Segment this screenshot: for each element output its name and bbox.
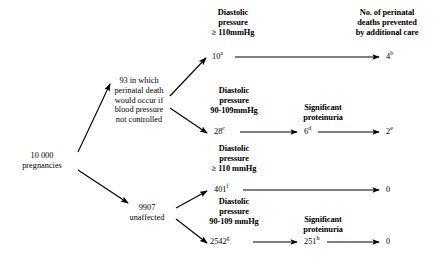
row-d-value-number: 2542 xyxy=(210,237,227,246)
column-header-proteinuria-row-b: Significant proteinuria xyxy=(290,103,356,123)
row-c-value-note: f xyxy=(226,183,228,189)
row-d-value-note: g xyxy=(227,235,230,241)
row-a-value-note: a xyxy=(220,50,223,56)
row-d-condition: Diastolic pressure 90-109 mmHg xyxy=(186,197,282,227)
row-d-proteinuria-note: h xyxy=(316,235,319,241)
row-a-outcome: 4b xyxy=(386,52,393,62)
flowchart-figure: 10 000 pregnancies 93 in which perinatal… xyxy=(0,0,442,271)
row-a-value: 10a xyxy=(212,52,223,62)
row-b-outcome: 2e xyxy=(386,127,393,137)
row-a-condition: Diastolic pressure ≥ 110mmHg xyxy=(192,8,274,38)
row-c-outcome-number: 0 xyxy=(386,185,390,194)
row-d-proteinuria-value: 251h xyxy=(304,237,319,247)
row-d-value: 2542g xyxy=(210,237,230,247)
branch-node-affected: 93 in which perinatal death would occur … xyxy=(104,76,174,125)
row-b-proteinuria-value: 6d xyxy=(304,127,311,137)
row-c-condition: Diastolic pressure ≥ 110 mmHg xyxy=(190,144,278,174)
row-d-outcome-number: 0 xyxy=(386,237,390,246)
column-header-outcome: No. of perinatal deaths prevented by add… xyxy=(336,8,438,38)
row-d-proteinuria-number: 251 xyxy=(304,237,316,246)
row-c-outcome: 0 xyxy=(386,185,390,195)
row-d-outcome: 0 xyxy=(386,237,390,247)
row-b-condition: Diastolic pressure 90-109mmHg xyxy=(188,86,280,116)
edge-root-to-unaffected xyxy=(78,170,128,203)
row-b-outcome-note: e xyxy=(390,125,393,131)
row-b-value-note: c xyxy=(222,125,225,131)
root-node-label: 10 000 pregnancies xyxy=(4,151,80,171)
branch-node-unaffected: 9907 unaffected xyxy=(118,203,176,223)
row-c-value: 401f xyxy=(214,185,228,195)
row-b-value: 28c xyxy=(214,127,225,137)
row-c-value-number: 401 xyxy=(214,185,226,194)
column-header-proteinuria-row-d: Significant proteinuria xyxy=(290,215,356,235)
row-a-outcome-note: b xyxy=(390,50,393,56)
row-b-proteinuria-note: d xyxy=(308,125,311,131)
